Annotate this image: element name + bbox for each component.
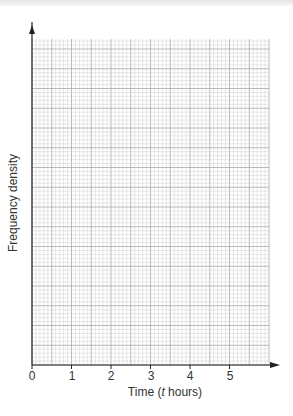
y-axis-label: Frequency density (6, 148, 20, 258)
x-tick-4: 4 (182, 369, 198, 383)
x-tick-2: 2 (103, 369, 119, 383)
x-tick-0: 0 (24, 369, 40, 383)
x-tick-3: 3 (143, 369, 159, 383)
x-tick-5: 5 (222, 369, 238, 383)
graph-paper-grid (0, 0, 293, 416)
x-axis-label: Time (t hours) (110, 385, 220, 399)
x-tick-1: 1 (64, 369, 80, 383)
